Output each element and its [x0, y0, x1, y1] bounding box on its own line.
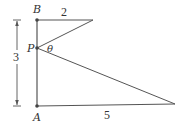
label-P: P: [26, 42, 35, 55]
segment-P-bottom: [37, 48, 175, 104]
length-label-2: 2: [61, 5, 67, 19]
length-label-3: 3: [13, 50, 19, 64]
point-B: [35, 18, 39, 22]
segment-P-top: [37, 20, 93, 48]
arrow-down-icon: [15, 100, 19, 105]
label-A: A: [32, 111, 41, 124]
label-B: B: [32, 3, 41, 16]
geometry-diagram: B P A θ 2 3 5: [0, 0, 187, 127]
arrow-up-icon: [15, 21, 19, 26]
length-label-5: 5: [104, 108, 110, 122]
point-P: [35, 46, 39, 50]
label-theta: θ: [47, 43, 53, 54]
segment-A-bottom: [37, 104, 175, 106]
point-A: [35, 104, 39, 108]
